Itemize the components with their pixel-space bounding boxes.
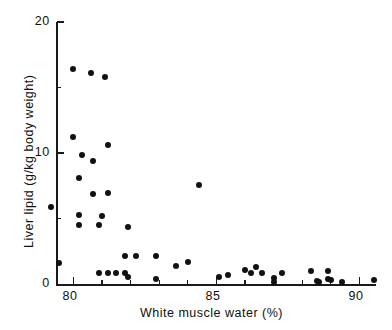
data-point: [248, 270, 254, 276]
data-point: [102, 74, 108, 80]
y-axis-tick-label: 10: [35, 145, 50, 159]
data-point: [76, 175, 82, 181]
data-point: [125, 224, 131, 230]
x-axis-title: White muscle water (%): [140, 306, 283, 320]
data-point: [79, 152, 85, 158]
data-point: [96, 270, 102, 276]
data-point: [70, 66, 76, 72]
data-point: [105, 190, 111, 196]
x-axis-minor-tick: [101, 280, 102, 285]
y-axis-major-tick: [57, 152, 64, 154]
y-axis-title: Liver lipid (g/kg body weight): [22, 75, 36, 248]
data-point: [99, 213, 105, 219]
y-axis-line: [56, 22, 58, 286]
y-axis-minor-tick: [57, 218, 62, 219]
data-point: [105, 142, 111, 148]
y-axis-major-tick: [57, 284, 64, 286]
x-axis-minor-tick: [187, 280, 188, 285]
data-point: [122, 253, 128, 259]
data-point: [76, 222, 82, 228]
x-axis-line: [56, 284, 376, 286]
x-axis-minor-tick: [159, 280, 160, 285]
x-axis-major-tick: [73, 277, 75, 284]
data-point: [253, 264, 259, 270]
x-axis-minor-tick: [302, 280, 303, 285]
data-point: [328, 277, 334, 283]
x-axis-tick-label: 85: [205, 289, 220, 303]
data-point: [133, 253, 139, 259]
x-axis-minor-tick: [130, 280, 131, 285]
data-point: [325, 268, 331, 274]
data-point: [56, 260, 62, 266]
data-point: [216, 274, 222, 280]
x-axis-tick-label: 90: [348, 289, 363, 303]
scatter-plot-figure: 80859001020 White muscle water (%) Liver…: [0, 0, 392, 330]
data-point: [371, 277, 377, 283]
y-axis-tick-label: 0: [42, 276, 50, 290]
y-axis-major-tick: [57, 21, 64, 23]
data-point: [76, 212, 82, 218]
data-point: [113, 270, 119, 276]
data-point: [185, 259, 191, 265]
y-axis-tick-label: 20: [35, 14, 50, 28]
x-axis-tick-label: 80: [62, 289, 77, 303]
data-point: [339, 279, 345, 285]
x-axis-minor-tick: [244, 280, 245, 285]
plot-area: 80859001020 White muscle water (%) Liver…: [0, 0, 392, 330]
data-point: [153, 253, 159, 259]
data-point: [90, 191, 96, 197]
data-point: [259, 270, 265, 276]
data-point: [96, 222, 102, 228]
data-point: [70, 134, 76, 140]
data-point: [173, 263, 179, 269]
data-point: [88, 70, 94, 76]
y-axis-minor-tick: [57, 87, 62, 88]
data-point: [90, 158, 96, 164]
data-point: [48, 204, 54, 210]
data-point: [105, 270, 111, 276]
data-point: [225, 272, 231, 278]
data-point: [196, 182, 202, 188]
data-point: [308, 268, 314, 274]
data-point: [125, 274, 131, 280]
data-point: [279, 270, 285, 276]
x-axis-major-tick: [359, 277, 361, 284]
